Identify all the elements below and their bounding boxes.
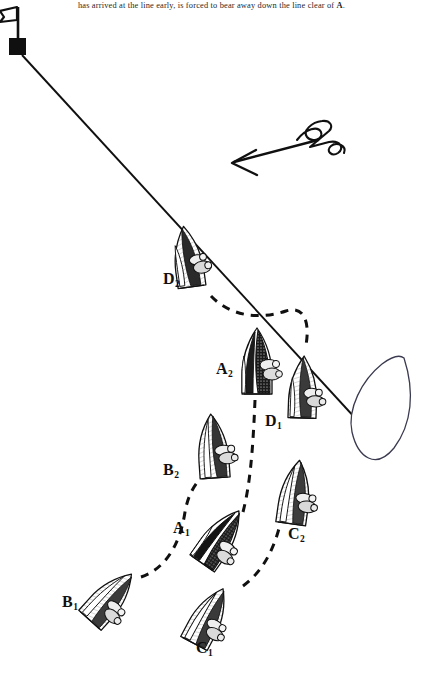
- boat-label-C2: C2: [288, 526, 304, 542]
- label-subscript: 1: [277, 421, 282, 431]
- label-letter: A: [216, 360, 228, 377]
- boat-C1: [181, 582, 245, 655]
- boat-label-A2: A2: [216, 361, 232, 377]
- label-letter: C: [288, 525, 300, 542]
- label-subscript: 2: [175, 279, 180, 289]
- label-letter: D: [163, 270, 175, 287]
- boat-label-B2: B2: [163, 462, 178, 478]
- label-subscript: 1: [208, 648, 213, 658]
- boat-label-C1: C1: [196, 640, 212, 656]
- wind-arrow: [232, 121, 345, 175]
- label-subscript: 2: [300, 534, 305, 544]
- label-subscript: 1: [185, 528, 190, 538]
- label-subscript: 1: [73, 602, 78, 612]
- label-letter: C: [196, 639, 208, 656]
- boat-A2: [242, 328, 282, 394]
- label-letter: D: [265, 412, 277, 429]
- boat-label-B1: B1: [62, 594, 77, 610]
- boat-label-D1: D1: [265, 413, 281, 429]
- boat-A1: [190, 502, 260, 578]
- boat-B2: [196, 412, 240, 479]
- sailing-diagram: [0, 0, 423, 673]
- committee-boat: [351, 356, 410, 459]
- label-subscript: 2: [228, 369, 233, 379]
- figure-page: has arrived at the line early, is forced…: [0, 0, 423, 673]
- boat-B1: [79, 564, 150, 636]
- boat-label-A1: A1: [173, 520, 189, 536]
- label-letter: A: [173, 519, 185, 536]
- label-letter: B: [163, 461, 174, 478]
- label-subscript: 2: [174, 470, 179, 480]
- boat-label-D2: D2: [163, 271, 179, 287]
- pin-end-flag: [0, 7, 26, 55]
- boat-D1: [288, 356, 327, 419]
- track-A: [243, 400, 255, 512]
- boat-C2: [276, 458, 324, 527]
- label-letter: B: [62, 593, 73, 610]
